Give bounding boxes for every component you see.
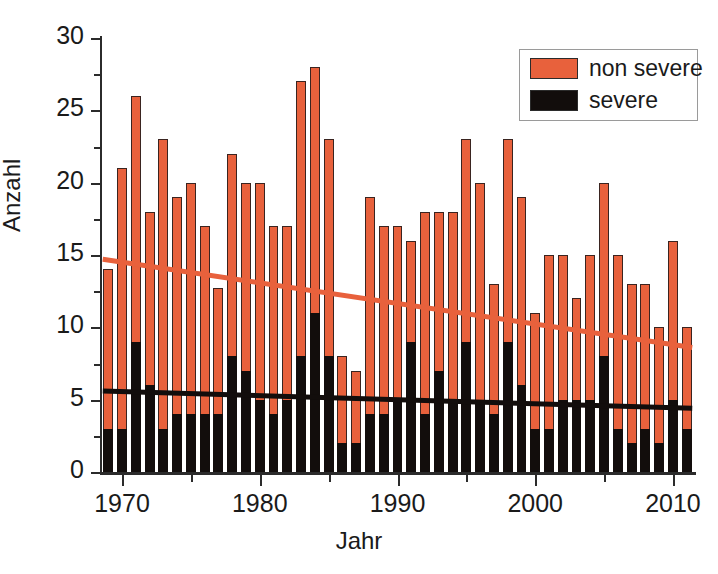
legend-swatch-severe-icon [530,90,578,111]
x-axis-tick [122,475,124,486]
trend-line-non-severe [103,259,692,347]
y-axis-tick-label: 0 [24,455,84,484]
trend-line-severe [103,391,692,408]
x-axis-tick [673,475,675,486]
x-axis-minor-tick [191,475,193,482]
y-axis-tick [91,472,100,474]
x-axis-tick-label: 1970 [94,489,150,518]
legend-label-severe: severe [589,87,658,114]
x-axis-title: Jahr [0,527,718,555]
y-axis-tick [91,110,100,112]
x-axis-minor-tick [466,475,468,482]
y-axis-tick-label: 25 [24,93,84,122]
x-axis-tick-label: 1990 [370,489,426,518]
x-axis-tick [260,475,262,486]
y-axis-tick-label: 30 [24,21,84,50]
y-axis-tick [91,327,100,329]
x-axis-tick [398,475,400,486]
x-axis-tick-label: 2000 [507,489,563,518]
x-axis-minor-tick [329,475,331,482]
y-axis-tick [91,38,100,40]
chart-figure: Anzahl 051015202530 19701980199020002010… [0,0,718,574]
x-axis-tick [535,475,537,486]
legend-item-severe: severe [530,87,658,113]
y-axis-tick [91,400,100,402]
legend-item-non-severe: non severe [530,55,703,81]
y-axis-tick-label: 20 [24,166,84,195]
x-axis-tick-label: 2010 [645,489,701,518]
y-axis-title: Anzahl [0,159,26,232]
y-axis-tick-label: 5 [24,383,84,412]
chart-legend: non severe severe [519,49,698,121]
x-axis-minor-tick [604,475,606,482]
legend-label-non-severe: non severe [589,55,703,82]
y-axis-tick-label: 10 [24,310,84,339]
x-axis-tick-label: 1980 [232,489,288,518]
y-axis-tick-label: 15 [24,238,84,267]
y-axis-tick [91,255,100,257]
legend-swatch-non-severe-icon [530,58,578,79]
y-axis-tick [91,183,100,185]
